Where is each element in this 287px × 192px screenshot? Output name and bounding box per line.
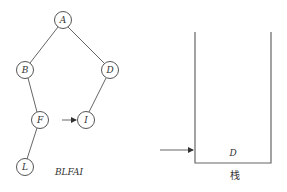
edge-b-f bbox=[28, 78, 37, 112]
tree-node-b: B bbox=[17, 62, 34, 79]
visit-sequence-label: BLFAI bbox=[54, 167, 84, 177]
tree-node-a: A bbox=[55, 12, 72, 29]
diagram-canvas: A B D F I L BLFAI D 栈 bbox=[0, 0, 287, 192]
node-label-b: B bbox=[21, 65, 29, 75]
stack-caption: 栈 bbox=[230, 169, 240, 181]
tree-node-l: L bbox=[17, 159, 34, 176]
node-label-i: I bbox=[83, 115, 88, 125]
stack-container bbox=[195, 32, 271, 163]
tree-node-d: D bbox=[102, 62, 119, 79]
edge-f-l bbox=[27, 128, 37, 159]
tree-node-i: I bbox=[78, 112, 95, 129]
stack-item-d: D bbox=[228, 148, 236, 158]
edge-a-d bbox=[68, 27, 104, 63]
edge-d-i bbox=[89, 78, 106, 112]
node-label-a: A bbox=[59, 15, 67, 25]
node-label-f: F bbox=[36, 115, 44, 125]
tree-node-f: F bbox=[32, 112, 49, 129]
node-label-d: D bbox=[105, 65, 113, 75]
tree-edges bbox=[27, 27, 106, 159]
edge-a-b bbox=[30, 27, 58, 63]
node-label-l: L bbox=[21, 162, 28, 172]
